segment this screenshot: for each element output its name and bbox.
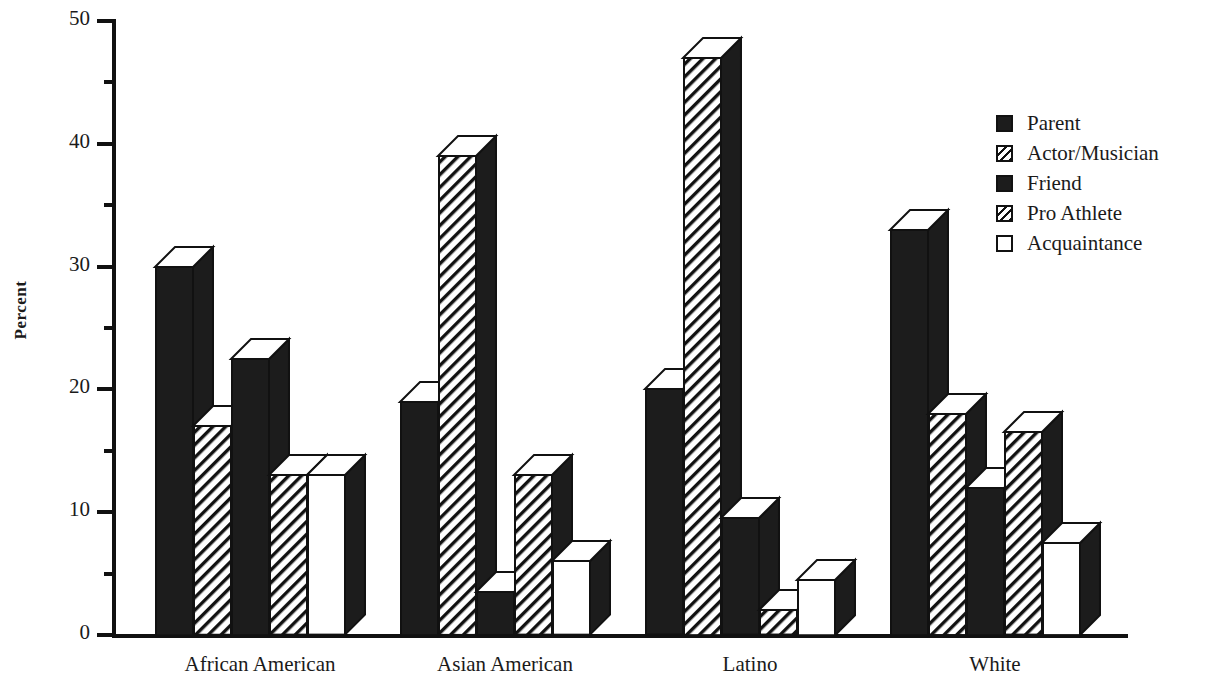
legend-item-label: Pro Athlete [1027, 201, 1122, 226]
bar [1042, 523, 1100, 635]
bar-front-face [270, 475, 307, 635]
y-tick-major [97, 19, 116, 23]
legend-item: Friend [996, 168, 1159, 198]
solid-square-icon [996, 115, 1013, 132]
bar-front-face [967, 488, 1004, 635]
bar-front-face [929, 414, 966, 635]
bar-side-face [476, 136, 496, 635]
legend-item: Pro Athlete [996, 198, 1159, 228]
legend-item-label: Parent [1027, 111, 1081, 136]
bar-front-face [308, 475, 345, 635]
bar-front-face [553, 561, 590, 635]
chart-legend: ParentActor/MusicianFriendPro AthleteAcq… [996, 108, 1159, 258]
legend-item: Parent [996, 108, 1159, 138]
y-tick-minor [104, 80, 116, 84]
solid-square-icon [996, 175, 1013, 192]
legend-item-label: Acquaintance [1027, 231, 1142, 256]
legend-item-label: Friend [1027, 171, 1082, 196]
y-tick-major [97, 510, 116, 514]
bar-front-face [1005, 432, 1042, 635]
y-tick-major [97, 633, 116, 637]
y-tick-major [97, 387, 116, 391]
y-tick-label: 30 [40, 252, 90, 277]
y-axis-title: Percent [11, 270, 31, 350]
y-tick-major [97, 265, 116, 269]
x-axis-group-label: African American [140, 652, 380, 677]
y-tick-label: 10 [40, 497, 90, 522]
x-axis-group-label: Latino [630, 652, 870, 677]
bar-front-face [156, 267, 193, 635]
y-tick-minor [104, 326, 116, 330]
bar-front-face [798, 580, 835, 635]
bar [307, 455, 365, 635]
bar [797, 560, 855, 635]
bar-front-face [891, 230, 928, 635]
y-tick-minor [104, 449, 116, 453]
x-axis-group-label: Asian American [385, 652, 625, 677]
legend-item-label: Actor/Musician [1027, 141, 1159, 166]
y-tick-major [97, 142, 116, 146]
bar [438, 136, 496, 635]
x-axis-group-label: White [875, 652, 1115, 677]
hatched-square-icon [996, 205, 1013, 222]
bar-front-face [477, 592, 514, 635]
legend-item: Actor/Musician [996, 138, 1159, 168]
bar-front-face [401, 402, 438, 635]
y-tick-label: 20 [40, 374, 90, 399]
y-tick-minor [104, 203, 116, 207]
bar-front-face [232, 359, 269, 635]
bar-front-face [515, 475, 552, 635]
bar-front-face [1043, 543, 1080, 635]
y-tick-label: 40 [40, 129, 90, 154]
bar-side-face [345, 455, 365, 635]
y-tick-label: 50 [40, 6, 90, 31]
y-tick-minor [104, 572, 116, 576]
bar-front-face [684, 58, 721, 635]
empty-square-icon [996, 235, 1013, 252]
y-tick-label: 0 [40, 620, 90, 645]
bar-front-face [194, 426, 231, 635]
bar-front-face [646, 389, 683, 635]
bar [552, 541, 610, 635]
bar-front-face [760, 610, 797, 635]
bar-front-face [722, 518, 759, 635]
bar-chart: Percent 01020304050 African AmericanAsia… [0, 0, 1218, 699]
legend-item: Acquaintance [996, 228, 1159, 258]
bar-front-face [439, 156, 476, 635]
hatched-square-icon [996, 145, 1013, 162]
